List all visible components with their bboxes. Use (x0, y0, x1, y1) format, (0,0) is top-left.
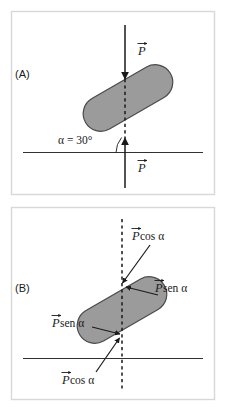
p-symbol: P (61, 373, 70, 387)
p-symbol: P (131, 229, 140, 243)
p-sen-alpha-left-label: P sen α (51, 316, 84, 331)
weight-label-top: P (137, 44, 147, 59)
p-symbol: P (51, 316, 60, 330)
cos-alpha-text: cos α (70, 374, 94, 386)
sen-alpha-text: sen α (163, 282, 187, 294)
weight-label-bottom: P (137, 161, 147, 176)
p-cos-alpha-top-label: P cos α (131, 229, 164, 244)
cos-alpha-text: cos α (140, 230, 164, 242)
p-cos-alpha-bottom-label: P cos α (61, 373, 94, 388)
p-sen-alpha-right-label: P sen α (154, 281, 187, 296)
panel-b-label: (B) (15, 282, 30, 294)
weight-symbol-top: P (137, 44, 146, 58)
p-symbol: P (154, 281, 163, 295)
physics-figure: (A) α = 30° P P (B) P cos α (0, 0, 226, 412)
panel-a-label: (A) (15, 68, 30, 80)
weight-symbol-bottom: P (137, 161, 146, 175)
angle-label: α = 30° (58, 134, 93, 146)
sen-alpha-text: sen α (60, 317, 84, 329)
